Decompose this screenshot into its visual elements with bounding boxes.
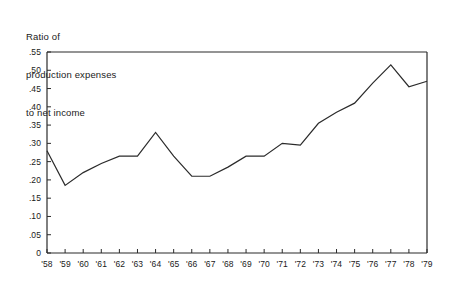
y-tick-label: .10: [23, 211, 41, 221]
x-tick-label: '71: [272, 259, 292, 269]
x-tick-label: '60: [73, 259, 93, 269]
x-tick-label: '70: [254, 259, 274, 269]
y-tick-label: .55: [23, 47, 41, 57]
y-tick-label: .25: [23, 157, 41, 167]
x-tick-label: '72: [290, 259, 310, 269]
y-tick-label: .15: [23, 193, 41, 203]
chart-figure: Ratio of production expenses to net inco…: [0, 0, 452, 285]
x-tick-label: '73: [308, 259, 328, 269]
y-tick-label: 0: [23, 248, 41, 258]
x-tick-label: '65: [164, 259, 184, 269]
y-tick-label: .35: [23, 120, 41, 130]
x-tick-label: '62: [109, 259, 129, 269]
x-tick-label: '69: [236, 259, 256, 269]
x-tick-label: '64: [146, 259, 166, 269]
y-tick-label: .20: [23, 175, 41, 185]
x-tick-label: '77: [381, 259, 401, 269]
y-tick-label: .50: [23, 65, 41, 75]
data-series-line: [47, 65, 427, 186]
x-tick-label: '75: [345, 259, 365, 269]
plot-area: [0, 0, 452, 285]
y-tick-label: .40: [23, 102, 41, 112]
axis-lines: [47, 52, 427, 253]
y-tick-label: .45: [23, 84, 41, 94]
x-tick-label: '66: [182, 259, 202, 269]
x-tick-label: '74: [327, 259, 347, 269]
x-tick-label: '63: [127, 259, 147, 269]
x-tick-label: '59: [55, 259, 75, 269]
x-tick-label: '68: [218, 259, 238, 269]
x-tick-label: '61: [91, 259, 111, 269]
y-tick-label: .05: [23, 230, 41, 240]
x-tick-label: '79: [417, 259, 437, 269]
x-tick-label: '78: [399, 259, 419, 269]
x-tick-label: '76: [363, 259, 383, 269]
y-tick-label: .30: [23, 138, 41, 148]
x-tick-label: '67: [200, 259, 220, 269]
x-tick-label: '58: [37, 259, 57, 269]
